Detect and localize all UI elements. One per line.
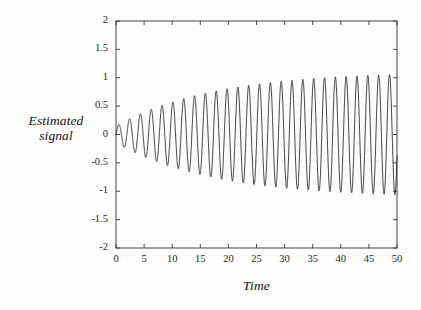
estimated-signal-line [116, 75, 397, 195]
plot-canvas [0, 0, 421, 310]
chart-figure: Estimated signal Time 21.510.50-0.5-1-1.… [0, 0, 421, 310]
